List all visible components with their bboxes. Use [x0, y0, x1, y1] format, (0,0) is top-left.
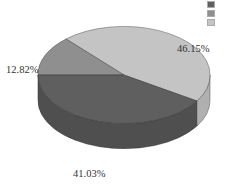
- pie-chart: [0, 0, 226, 187]
- label-dark: 41.03%: [73, 168, 105, 179]
- label-light: 46.15%: [177, 43, 209, 54]
- legend-swatch-medium: [207, 10, 215, 17]
- legend-swatch-light: [207, 19, 215, 26]
- legend-swatch-dark: [207, 1, 215, 8]
- label-medium: 12.82%: [6, 64, 38, 75]
